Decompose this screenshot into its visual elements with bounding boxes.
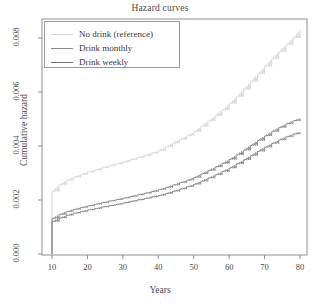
legend-label: No drink (reference) bbox=[79, 27, 153, 41]
y-tick-label: 0.004 bbox=[11, 125, 21, 165]
x-tick-label: 80 bbox=[289, 262, 311, 272]
x-tick-label: 40 bbox=[147, 262, 169, 272]
x-tick-label: 60 bbox=[218, 262, 240, 272]
x-tick-label: 50 bbox=[183, 262, 205, 272]
legend-line-swatch bbox=[51, 62, 73, 63]
y-tick-label: 0.008 bbox=[11, 17, 21, 57]
legend-item: No drink (reference) bbox=[51, 27, 153, 41]
legend-label: Drink weekly bbox=[79, 55, 128, 69]
y-tick-label: 0.006 bbox=[11, 71, 21, 111]
x-tick-label: 10 bbox=[41, 262, 63, 272]
legend-line-swatch bbox=[51, 48, 73, 49]
hazard-curves-figure: Hazard curves Cumulative hazard Years 10… bbox=[0, 0, 320, 305]
x-tick-label: 20 bbox=[76, 262, 98, 272]
legend-item: Drink monthly bbox=[51, 41, 132, 55]
legend-item: Drink weekly bbox=[51, 55, 128, 69]
x-axis-label: Years bbox=[0, 285, 320, 295]
y-tick-label: 0.002 bbox=[11, 179, 21, 219]
series-line-2 bbox=[52, 132, 300, 254]
series-line-1 bbox=[52, 118, 300, 254]
x-tick-label: 30 bbox=[112, 262, 134, 272]
legend: No drink (reference)Drink monthlyDrink w… bbox=[44, 21, 180, 68]
y-tick-label: 0.000 bbox=[11, 233, 21, 273]
legend-line-swatch bbox=[51, 34, 73, 35]
legend-label: Drink monthly bbox=[79, 41, 132, 55]
x-tick-label: 70 bbox=[254, 262, 276, 272]
